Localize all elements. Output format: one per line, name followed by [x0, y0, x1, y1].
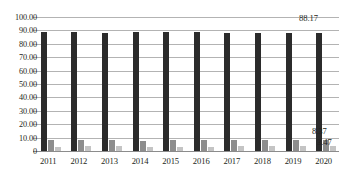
value-label-series-1-2020: 88.17	[299, 13, 318, 23]
y-axis-tick-label: 90.00	[0, 26, 37, 35]
y-axis-tick-label: 50.00	[0, 80, 37, 89]
x-axis-category-label: 2012	[64, 156, 95, 166]
bar-series-2-2015	[170, 140, 176, 151]
x-axis-category-label: 2019	[278, 156, 309, 166]
y-axis-tick-label: 80.00	[0, 39, 37, 48]
y-axis-tick-label: 20.00	[0, 120, 37, 129]
bar-series-3-2011	[55, 147, 61, 151]
bar-series-1-2012	[71, 32, 77, 151]
y-axis-tick-label: 10.00	[0, 133, 37, 142]
bar-series-1-2016	[194, 32, 200, 151]
bar-group	[64, 17, 95, 151]
bars	[186, 17, 217, 151]
bar-series-3-2015	[177, 147, 183, 151]
bar-series-2-2014	[140, 141, 146, 151]
bar-series-3-2016	[208, 147, 214, 151]
value-label-series-3-2020: 3.47	[317, 137, 332, 147]
bar-series-2-2012	[78, 140, 84, 151]
bar-group	[217, 17, 248, 151]
y-axis-tick-label: 40.00	[0, 93, 37, 102]
x-axis-category-label: 2013	[94, 156, 125, 166]
bar-series-3-2014	[147, 147, 153, 151]
bar-series-3-2013	[116, 146, 122, 151]
bars	[278, 17, 309, 151]
bar-series-2-2019	[293, 140, 299, 151]
bar-group	[155, 17, 186, 151]
bar-series-2-2013	[109, 140, 115, 151]
x-axis-category-label: 2014	[125, 156, 156, 166]
x-axis-category-label: 2016	[186, 156, 217, 166]
bar-chart: 100.0090.0080.0070.0060.0050.0040.0030.0…	[0, 0, 347, 179]
plot-area	[33, 17, 339, 151]
bar-series-1-2013	[102, 33, 108, 151]
bar-group	[278, 17, 309, 151]
bar-series-1-2018	[255, 33, 261, 151]
bar-series-3-2018	[269, 146, 275, 151]
bar-series-3-2020	[330, 146, 336, 151]
bar-series-1-2017	[224, 33, 230, 151]
bar-group	[33, 17, 64, 151]
bar-series-3-2019	[300, 146, 306, 151]
gridline	[33, 151, 339, 152]
bars	[64, 17, 95, 151]
bar-series-3-2012	[85, 146, 91, 151]
bar-group	[94, 17, 125, 151]
bar-series-1-2014	[133, 32, 139, 151]
bar-series-2-2011	[48, 140, 54, 151]
bar-group	[186, 17, 217, 151]
bar-series-2-2016	[201, 140, 207, 151]
bars	[125, 17, 156, 151]
bars	[33, 17, 64, 151]
x-axis-category-label: 2011	[33, 156, 64, 166]
x-axis-category-label: 2015	[155, 156, 186, 166]
x-axis-category-label: 2018	[247, 156, 278, 166]
x-axis-category-labels: 2011201220132014201520162017201820192020	[33, 156, 339, 166]
bars	[217, 17, 248, 151]
bar-series-2-2018	[262, 140, 268, 151]
y-axis-tick-label: 0	[0, 147, 37, 156]
bar-group	[125, 17, 156, 151]
bars	[155, 17, 186, 151]
bar-series-1-2019	[286, 33, 292, 151]
bar-group	[247, 17, 278, 151]
bars	[247, 17, 278, 151]
y-axis-tick-label: 70.00	[0, 53, 37, 62]
y-axis-tick-label: 60.00	[0, 66, 37, 75]
bar-groups	[33, 17, 339, 151]
bar-series-3-2017	[238, 146, 244, 151]
x-axis-category-label: 2020	[308, 156, 339, 166]
bars	[94, 17, 125, 151]
y-axis-tick-label: 30.00	[0, 106, 37, 115]
value-label-series-2-2020: 8.37	[312, 126, 327, 136]
bar-series-2-2017	[231, 140, 237, 151]
bar-series-1-2011	[41, 32, 47, 151]
bar-series-1-2015	[163, 32, 169, 151]
x-axis-category-label: 2017	[217, 156, 248, 166]
y-axis-tick-label: 100.00	[0, 13, 37, 22]
